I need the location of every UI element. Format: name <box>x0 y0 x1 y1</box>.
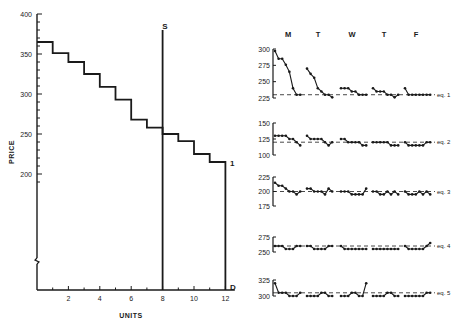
data-point <box>317 87 320 90</box>
data-point <box>347 87 350 90</box>
data-point <box>386 141 389 144</box>
data-point <box>354 90 357 93</box>
data-point <box>358 193 361 196</box>
data-point <box>383 295 386 298</box>
data-point <box>383 141 386 144</box>
data-point <box>351 90 354 93</box>
data-point <box>340 295 343 298</box>
x-tick-label: 8 <box>161 295 165 302</box>
data-point <box>288 248 291 251</box>
data-point <box>422 144 425 147</box>
data-point <box>324 141 327 144</box>
data-point <box>351 248 354 251</box>
data-point <box>313 248 316 251</box>
data-point <box>361 193 364 196</box>
data-point <box>295 193 298 196</box>
data-point <box>324 193 327 196</box>
data-point <box>292 295 295 298</box>
data-point <box>415 93 418 96</box>
data-point <box>274 135 277 138</box>
data-point <box>397 93 400 96</box>
data-point <box>295 295 298 298</box>
data-point <box>386 292 389 295</box>
data-point <box>422 295 425 298</box>
axis-break-icon <box>35 258 39 264</box>
data-point <box>340 190 343 193</box>
data-point <box>331 245 334 248</box>
data-point <box>404 295 407 298</box>
data-point <box>351 193 354 196</box>
data-point <box>317 138 320 141</box>
session-line <box>275 136 300 146</box>
data-point <box>393 295 396 298</box>
data-point <box>347 295 350 298</box>
data-point <box>379 90 382 93</box>
data-point <box>281 135 284 138</box>
panel-y-tick-label: 250 <box>258 78 270 85</box>
data-point <box>361 144 364 147</box>
data-point <box>415 144 418 147</box>
supply-demand-chart: 20025030035040024681012 PRICE UNITS S D … <box>8 11 236 320</box>
panel-y-tick-label: 300 <box>258 46 270 53</box>
data-point <box>372 141 375 144</box>
data-point <box>285 187 288 190</box>
data-point <box>313 76 316 79</box>
data-point <box>397 144 400 147</box>
day-label-fri: F <box>414 30 419 39</box>
supply-label: S <box>162 22 168 31</box>
panel-5: 300325eq. 5 <box>258 277 451 300</box>
data-point <box>306 187 309 190</box>
data-point <box>379 248 382 251</box>
data-point <box>277 58 280 61</box>
data-point <box>418 295 421 298</box>
data-point <box>390 292 393 295</box>
y-tick-label: 400 <box>20 11 32 18</box>
y-axis-title: PRICE <box>8 140 15 164</box>
data-point <box>320 90 323 93</box>
data-point <box>340 138 343 141</box>
equilibrium-label: eq. 4 <box>437 243 451 249</box>
data-point <box>277 292 280 295</box>
panel-1: 225250275300eq. 1 <box>258 46 451 102</box>
data-point <box>407 144 410 147</box>
day-label-wed: W <box>348 30 356 39</box>
data-point <box>383 193 386 196</box>
data-point <box>411 144 414 147</box>
data-point <box>299 292 302 295</box>
data-point <box>313 190 316 193</box>
data-point <box>365 248 368 251</box>
panel-3: 175200225eq. 3 <box>258 174 451 210</box>
data-point <box>354 292 357 295</box>
panel-y-tick-label: 125 <box>258 136 270 143</box>
data-point <box>372 248 375 251</box>
data-point <box>309 295 312 298</box>
data-point <box>309 187 312 190</box>
data-point <box>404 87 407 90</box>
panel-4: 250275eq. 4 <box>258 234 451 256</box>
data-point <box>411 193 414 196</box>
data-point <box>375 190 378 193</box>
data-point <box>404 141 407 144</box>
data-point <box>365 144 368 147</box>
chart-figure: 20025030035040024681012 PRICE UNITS S D … <box>0 0 462 327</box>
data-point <box>274 282 277 285</box>
equilibrium-label: eq. 3 <box>437 189 451 195</box>
data-point <box>386 248 389 251</box>
data-point <box>404 245 407 248</box>
x-tick-label: 10 <box>190 295 198 302</box>
data-point <box>361 295 364 298</box>
data-point <box>422 248 425 251</box>
session-line <box>373 88 398 97</box>
data-point <box>317 295 320 298</box>
data-point <box>372 295 375 298</box>
data-point <box>274 50 277 53</box>
data-point <box>295 245 298 248</box>
data-point <box>288 71 291 74</box>
data-point <box>390 248 393 251</box>
y-tick-label: 300 <box>20 91 32 98</box>
data-point <box>299 245 302 248</box>
data-point <box>306 245 309 248</box>
data-point <box>375 141 378 144</box>
data-point <box>404 190 407 193</box>
data-point <box>288 138 291 141</box>
